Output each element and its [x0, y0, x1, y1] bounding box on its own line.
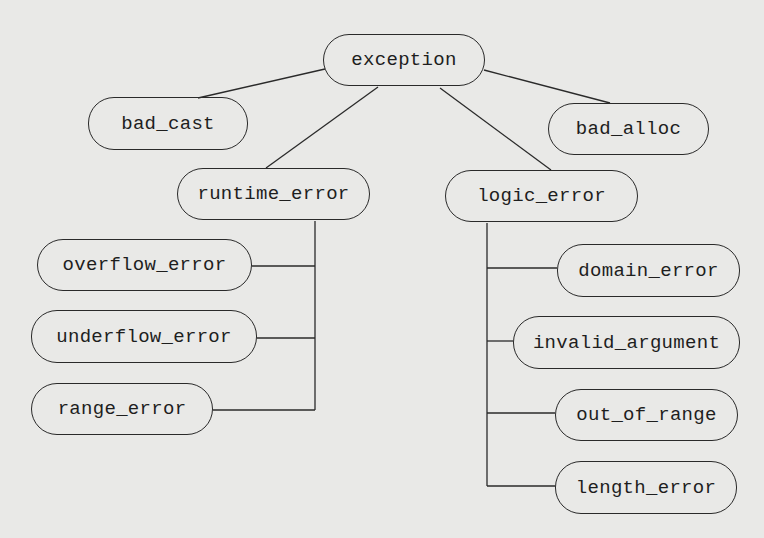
edge-exception-runtime-error — [266, 87, 378, 168]
node-range-error: range_error — [31, 383, 213, 435]
node-domain-error: domain_error — [557, 244, 740, 297]
edge-exception-bad-alloc — [484, 70, 610, 103]
node-logic-error: logic_error — [445, 170, 638, 222]
node-invalid-argument: invalid_argument — [513, 316, 740, 369]
node-bad-alloc: bad_alloc — [548, 103, 709, 155]
exception-hierarchy-diagram: exception bad_cast bad_alloc runtime_err… — [0, 0, 764, 538]
node-length-error: length_error — [555, 461, 737, 514]
node-bad-cast: bad_cast — [88, 97, 248, 150]
node-exception: exception — [323, 34, 485, 86]
node-out-of-range: out_of_range — [555, 389, 738, 441]
edge-exception-logic-error — [440, 88, 551, 170]
node-underflow-error: underflow_error — [31, 310, 257, 363]
node-runtime-error: runtime_error — [177, 168, 370, 220]
node-overflow-error: overflow_error — [37, 239, 252, 291]
edge-exception-bad-cast — [198, 69, 325, 98]
